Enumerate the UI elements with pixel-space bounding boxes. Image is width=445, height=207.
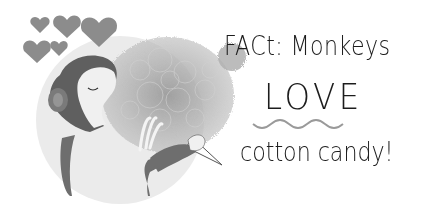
wavy-underline	[253, 120, 343, 128]
caption-line-fact: FACt: Monkeys	[224, 30, 390, 61]
caption-line-cotton-candy: cotton candy!	[240, 136, 394, 167]
caption-line-love: LOVE	[264, 76, 363, 117]
